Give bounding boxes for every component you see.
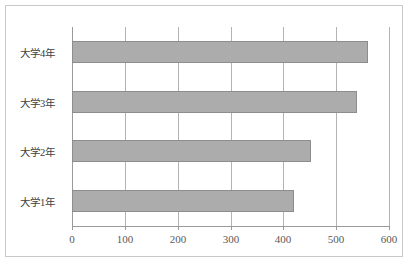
x-tick-mark-200 bbox=[178, 226, 179, 230]
x-tick-label-300: 300 bbox=[211, 233, 251, 245]
bar bbox=[72, 91, 357, 113]
category-label: 大学2年 bbox=[20, 144, 72, 159]
x-tick-mark-500 bbox=[336, 226, 337, 230]
x-tick-mark-100 bbox=[125, 226, 126, 230]
category-label: 大学1年 bbox=[20, 194, 72, 209]
x-tick-mark-600 bbox=[389, 226, 390, 230]
category-label: 大学3年 bbox=[20, 95, 72, 110]
category-label: 大学4年 bbox=[20, 45, 72, 60]
chart-frame: 0100200300400500600 大学1年大学2年大学3年大学4年 bbox=[5, 5, 403, 257]
bar bbox=[72, 190, 294, 212]
bar bbox=[72, 41, 368, 63]
x-tick-label-400: 400 bbox=[263, 233, 303, 245]
x-tick-label-100: 100 bbox=[105, 233, 145, 245]
x-tick-label-0: 0 bbox=[52, 233, 92, 245]
gridline-600 bbox=[389, 27, 390, 226]
x-tick-label-500: 500 bbox=[316, 233, 356, 245]
x-tick-mark-400 bbox=[283, 226, 284, 230]
x-tick-mark-0 bbox=[72, 226, 73, 230]
x-tick-label-600: 600 bbox=[369, 233, 409, 245]
bar bbox=[72, 140, 311, 162]
x-tick-mark-300 bbox=[231, 226, 232, 230]
x-tick-label-200: 200 bbox=[158, 233, 198, 245]
